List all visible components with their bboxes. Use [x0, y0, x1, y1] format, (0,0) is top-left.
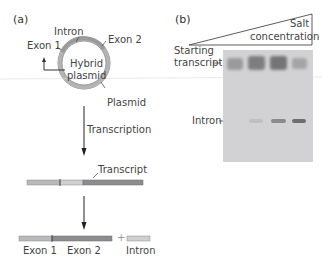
product-exon2-label: Exon 2 — [67, 245, 101, 256]
salt-label-line2: concentration — [250, 31, 319, 42]
transcript-bar — [27, 179, 143, 186]
plasmid-label: Plasmid — [107, 97, 146, 108]
spliced-exons-bar — [19, 235, 112, 242]
plasmid-center-line2: plasmid — [67, 70, 106, 81]
panel-b-label: (b) — [175, 14, 191, 25]
starting-transcript-line2: transcript — [174, 57, 222, 68]
plus-sign: + — [117, 232, 125, 243]
product-intron-label: Intron — [126, 245, 156, 256]
plasmid-center-line1: Hybrid — [70, 58, 103, 69]
lane-4-intron-band — [292, 119, 306, 123]
salt-label-line1: Salt — [290, 18, 309, 29]
lane-3-intron-band — [271, 119, 286, 123]
exon2-label: Exon 2 — [108, 34, 142, 45]
intron-row-label: Intron — [192, 115, 222, 126]
intron-label: Intron — [54, 26, 84, 37]
lane-2-starting-band — [248, 56, 265, 70]
lane-3-starting-band — [270, 56, 287, 70]
product-exon1-label: Exon 1 — [23, 245, 57, 256]
transcript-label: Transcript — [98, 164, 147, 175]
lane-1-starting-band — [227, 58, 243, 70]
gel-image — [223, 50, 313, 162]
lane-2-intron-band — [249, 119, 263, 123]
intron-bar — [127, 236, 150, 241]
exon1-label: Exon 1 — [27, 40, 61, 51]
lane-4-starting-band — [292, 58, 307, 69]
transcription-label: Transcription — [87, 124, 151, 135]
starting-transcript-line1: Starting — [174, 45, 214, 56]
